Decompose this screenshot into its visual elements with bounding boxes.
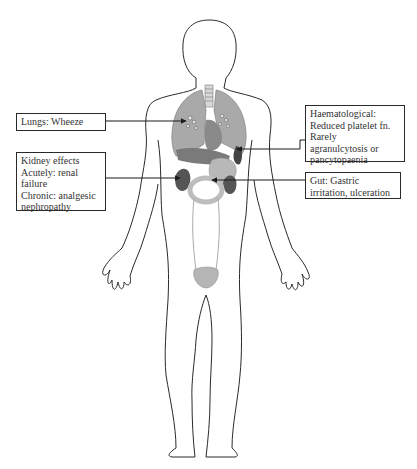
label-gut-line: Gut: Gastric [310, 175, 396, 187]
label-kidney: Kidney effects Acutely: renal failure Ch… [16, 152, 106, 211]
right-arm-outline [254, 100, 309, 290]
label-haematological-line: Reduced platelet fn. [310, 120, 400, 132]
label-haematological-line: Haematological: [310, 108, 400, 120]
bladder [194, 267, 219, 288]
right-lung [172, 90, 206, 156]
label-kidney-line: Chronic: analgesic [21, 190, 101, 202]
head-outline [183, 20, 262, 100]
left-kidney [223, 176, 236, 194]
label-kidney-line: Acutely: renal [21, 167, 101, 179]
intestine [190, 178, 222, 202]
label-haematological-line: pancytopaenia [310, 154, 400, 166]
label-haematological-line: agranulcytosis or [310, 143, 400, 155]
left-leg-inner [192, 295, 206, 457]
organs [172, 85, 246, 288]
label-kidney-line: nephropathy [21, 201, 101, 213]
label-gut-line: irritation, ulceration [310, 187, 396, 199]
label-kidney-line: Kidney effects [21, 155, 101, 167]
label-haematological-line: Rarely [310, 131, 400, 143]
leader-haematological [237, 140, 305, 149]
label-lungs: Lungs: Wheeze [16, 113, 106, 131]
label-kidney-line: failure [21, 178, 101, 190]
body-diagram [0, 0, 417, 469]
trachea [205, 85, 213, 107]
left-arm-outline [103, 100, 158, 289]
label-lungs-line: Lungs: Wheeze [21, 116, 101, 128]
right-leg-inner [206, 295, 212, 457]
label-gut: Gut: Gastric irritation, ulceration [305, 172, 401, 199]
ureters [193, 198, 220, 270]
label-haematological: Haematological: Reduced platelet fn. Rar… [305, 105, 405, 162]
